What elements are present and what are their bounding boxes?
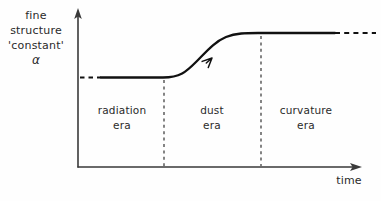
- era-label-curvature: curvature era: [265, 103, 347, 133]
- evolution-direction-arrowhead: [202, 55, 215, 68]
- era-label-radiation: radiation era: [82, 103, 162, 133]
- y-axis: [74, 8, 82, 167]
- era-label-curvature-line-2: era: [297, 119, 315, 131]
- era-label-radiation-line-1: radiation: [98, 104, 147, 116]
- era-label-dust-line-1: dust: [200, 104, 224, 116]
- y-axis-label-line-1: fine: [25, 9, 46, 22]
- alpha-symbol: α: [0, 53, 72, 68]
- y-axis-label: fine structure 'constant' α: [0, 8, 72, 68]
- era-label-curvature-line-1: curvature: [280, 104, 333, 116]
- era-label-dust: dust era: [174, 103, 250, 133]
- era-label-dust-line-2: era: [203, 119, 221, 131]
- fine-structure-constant-diagram: fine structure 'constant' α radiation er…: [0, 0, 381, 201]
- alpha-evolution-curve: [101, 33, 335, 78]
- y-axis-label-line-3: 'constant': [8, 39, 64, 52]
- x-axis: [78, 163, 362, 171]
- era-label-radiation-line-2: era: [113, 119, 131, 131]
- x-axis-label: time: [326, 174, 372, 188]
- y-axis-label-line-2: structure: [10, 24, 62, 37]
